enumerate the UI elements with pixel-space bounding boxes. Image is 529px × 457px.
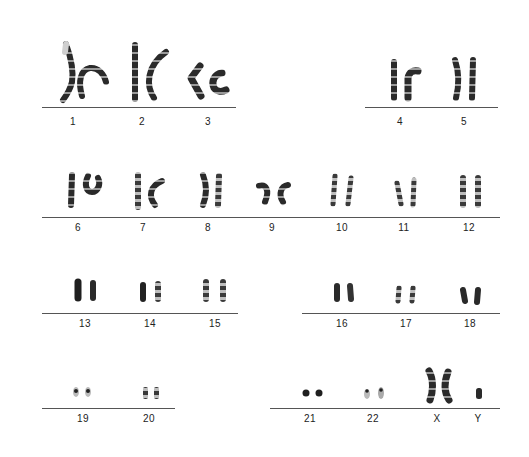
chromosome-pair-14 (143, 284, 158, 299)
group-divider-line (270, 408, 500, 409)
group-divider-line (42, 408, 175, 409)
chromosome-pair-22 (364, 387, 384, 399)
chromosome-label: 10 (336, 222, 348, 233)
group-divider-line (42, 313, 238, 314)
chromosome-label: 15 (209, 318, 221, 329)
chromosome-pair-19 (73, 387, 91, 397)
chromosome-pair-8 (203, 175, 219, 205)
chromosome-label: 11 (398, 222, 409, 233)
chromosome-label: 20 (143, 413, 155, 424)
chromosome-label: 21 (304, 413, 316, 424)
chromosome-pair-3 (191, 66, 226, 96)
chromosome-label: 13 (79, 318, 91, 329)
chromosome-pair-13 (78, 282, 93, 298)
chromosome-pair-6 (71, 175, 99, 205)
chromosome-pair-18 (463, 290, 478, 302)
chromosome-x (429, 371, 449, 400)
chromosome-pair-4 (394, 62, 418, 98)
group-divider-line (302, 313, 500, 314)
group-divider-line (365, 107, 498, 108)
chromosome-label: 4 (397, 116, 403, 127)
chromosome-label: X (433, 413, 440, 424)
chromosome-label: 7 (140, 222, 146, 233)
chromosome-label: 18 (464, 318, 476, 329)
chromosome-label: 12 (463, 222, 475, 233)
chromosome-pair-7 (138, 175, 162, 207)
chromosome-label: 19 (77, 413, 89, 424)
chromosome-pair-1 (63, 44, 106, 100)
chromosome-pair-17 (398, 288, 413, 301)
chromosome-label: 17 (400, 318, 412, 329)
chromosome-label: 9 (269, 222, 275, 233)
chromosome-label: 6 (75, 222, 81, 233)
chromosome-pair-15 (206, 282, 223, 299)
chromosome-pair-20 (143, 387, 159, 399)
chromosome-pair-16 (337, 286, 351, 299)
chromosome-pair-10 (333, 176, 351, 204)
chromosome-pair-11 (397, 180, 414, 205)
chromosome-label: 5 (461, 116, 467, 127)
chromosome-pair-21 (303, 390, 323, 397)
chromosome-label: Y (474, 413, 481, 424)
chromosome-label: 3 (205, 116, 211, 127)
chromosome-pair-2 (135, 45, 166, 99)
chromosome-y (476, 388, 482, 399)
chromosome-pair-5 (455, 60, 473, 98)
chromosome-label: 16 (336, 318, 348, 329)
chromosome-label: 8 (205, 222, 211, 233)
chromosome-label: 14 (144, 318, 156, 329)
chromosome-pair-9 (259, 185, 288, 202)
chromosome-label: 2 (139, 116, 145, 127)
chromosome-label: 22 (367, 413, 379, 424)
group-divider-line (42, 107, 236, 108)
group-divider-line (42, 217, 500, 218)
chromosome-pair-12 (463, 178, 478, 205)
chromosome-label: 1 (70, 116, 76, 127)
